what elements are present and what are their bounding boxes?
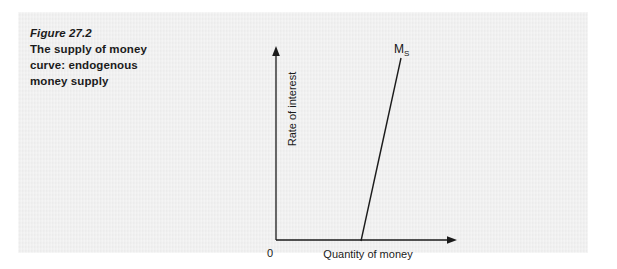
chart-svg <box>223 25 473 266</box>
money-supply-curve-label: MS <box>394 43 409 60</box>
figure-caption-line-1: Figure 27.2 <box>30 25 205 41</box>
figure-root: Figure 27.2 The supply of money curve: e… <box>0 0 617 269</box>
origin-label: 0 <box>267 246 273 260</box>
figure-caption-line-2: The supply of money <box>30 41 205 57</box>
figure-caption-line-4: money supply <box>30 73 205 89</box>
y-axis-arrow-icon <box>272 46 280 56</box>
figure-panel: Figure 27.2 The supply of money curve: e… <box>18 12 588 253</box>
money-supply-curve-label-base: M <box>394 42 404 56</box>
figure-caption: Figure 27.2 The supply of money curve: e… <box>30 25 205 89</box>
figure-caption-line-3: curve: endogenous <box>30 57 205 73</box>
x-axis-title: Quantity of money <box>298 247 438 261</box>
chart-plot-area: Rate of interest Quantity of money 0 MS <box>223 25 473 266</box>
money-supply-curve <box>361 58 401 241</box>
x-axis-arrow-icon <box>447 236 457 244</box>
y-axis-title: Rate of interest <box>284 54 300 164</box>
money-supply-curve-label-subscript: S <box>404 49 409 58</box>
